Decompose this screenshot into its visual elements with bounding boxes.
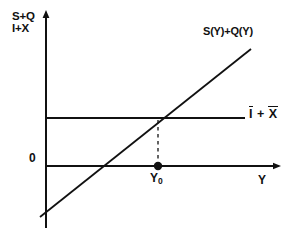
origin-label: 0 (29, 152, 36, 165)
equilibrium-point-marker (154, 162, 162, 170)
x-axis-label: Y (258, 174, 266, 187)
i-bar-symbol: I (249, 108, 253, 121)
y-axis-label-line2: I+X (12, 22, 35, 34)
equilibrium-income-label: Y0 (150, 172, 163, 186)
sq-curve-label: S(Y)+Q(Y) (203, 26, 253, 38)
autonomous-line-label: I + X (249, 108, 278, 121)
y-axis-label-line1: S+Q (12, 10, 35, 22)
economics-equilibrium-diagram: S+Q I+X S(Y)+Q(Y) I + X 0 Y0 Y (0, 0, 295, 241)
y0-base: Y (150, 171, 158, 185)
x-axis-arrowhead-icon (273, 163, 281, 169)
plus-symbol: + (253, 107, 269, 121)
y-axis-label: S+Q I+X (12, 10, 35, 34)
y-axis-arrowhead-icon (43, 10, 50, 18)
x-bar-symbol: X (269, 108, 278, 121)
sloped-sq-curve (40, 49, 251, 217)
y0-subscript: 0 (158, 176, 163, 186)
